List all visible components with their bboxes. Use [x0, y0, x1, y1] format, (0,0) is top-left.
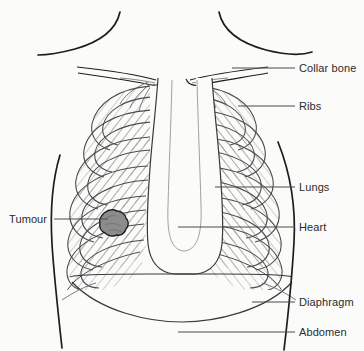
label-heart: Heart: [299, 221, 326, 233]
label-diaphragm: Diaphragm: [299, 296, 354, 308]
label-abdomen: Abdomen: [299, 326, 347, 338]
label-tumour: Tumour: [9, 213, 47, 225]
label-lungs: Lungs: [299, 181, 329, 193]
label-ribs: Ribs: [299, 100, 321, 112]
tumour-mass: [100, 210, 129, 236]
label-collar-bone: Collar bone: [299, 62, 356, 74]
chest-anatomy-diagram: Collar bone Ribs Lungs Heart Diaphragm A…: [0, 0, 364, 351]
